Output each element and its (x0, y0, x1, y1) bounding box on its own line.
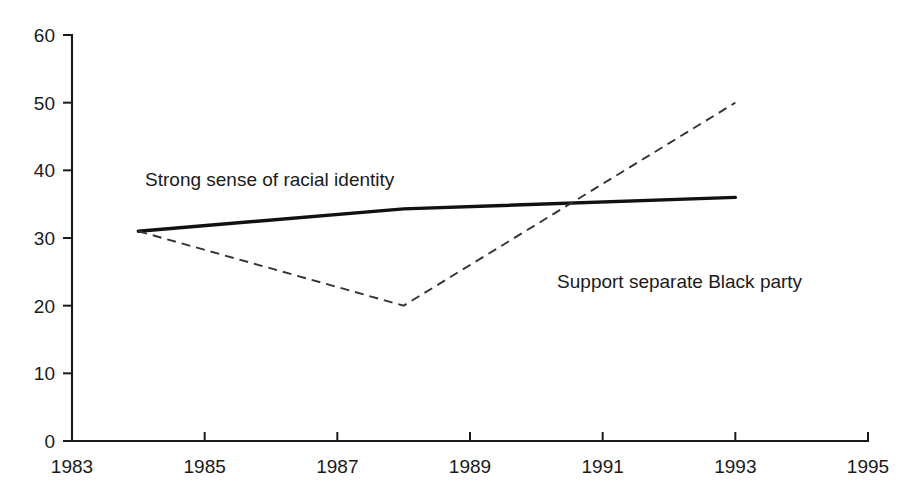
x-tick-label: 1989 (449, 456, 491, 477)
y-tick-label: 40 (34, 160, 55, 181)
y-tick-label: 30 (34, 228, 55, 249)
y-tick-label: 10 (34, 363, 55, 384)
axis-lines (72, 35, 868, 441)
chart-container: 0102030405060 19831985198719891991199319… (0, 0, 914, 500)
y-tick-label: 50 (34, 93, 55, 114)
line-chart: 0102030405060 19831985198719891991199319… (0, 0, 914, 500)
y-tick-label: 0 (44, 431, 55, 452)
series-line-solid (138, 197, 735, 231)
x-axis-ticks: 1983198519871989199119931995 (51, 432, 889, 477)
x-tick-label: 1987 (316, 456, 358, 477)
x-tick-label: 1985 (184, 456, 226, 477)
y-tick-label: 60 (34, 25, 55, 46)
series-annotation-label: Strong sense of racial identity (145, 169, 395, 190)
x-tick-label: 1983 (51, 456, 93, 477)
x-tick-label: 1993 (714, 456, 756, 477)
y-axis-ticks: 0102030405060 (34, 25, 72, 452)
series-annotations: Strong sense of racial identitySupport s… (145, 169, 803, 292)
x-tick-label: 1995 (847, 456, 889, 477)
series-annotation-label: Support separate Black party (557, 271, 803, 292)
y-tick-label: 20 (34, 296, 55, 317)
x-tick-label: 1991 (582, 456, 624, 477)
